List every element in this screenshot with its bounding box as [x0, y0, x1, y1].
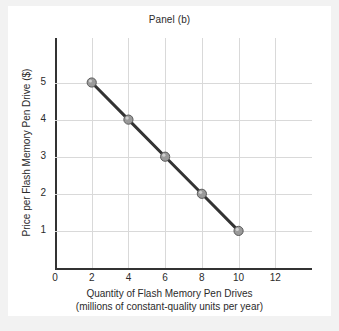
- x-axis-line: [55, 268, 312, 270]
- data-point-highlight: [126, 117, 129, 120]
- x-tick-label-2: 2: [77, 272, 107, 283]
- plot-area: [55, 38, 312, 268]
- data-point-marker: [87, 78, 96, 87]
- data-point-marker: [161, 152, 170, 161]
- data-point-highlight: [236, 228, 239, 231]
- chart-title: Panel (b): [0, 14, 339, 25]
- x-axis-title-main: Quantity of Flash Memory Pen Drives: [0, 287, 339, 300]
- x-axis-title: Quantity of Flash Memory Pen Drives (mil…: [0, 287, 339, 313]
- chart-screenshot: Panel (b) 024681012 12345 Price per Flas…: [0, 0, 339, 331]
- x-tick-label-10: 10: [224, 272, 254, 283]
- data-point-highlight: [199, 191, 202, 194]
- y-axis-title: Price per Flash Memory Pen Drive ($): [21, 43, 32, 263]
- x-tick-label-0: 0: [40, 272, 70, 283]
- data-point-highlight: [162, 154, 165, 157]
- data-point-marker: [234, 226, 243, 235]
- x-tick-label-12: 12: [260, 272, 290, 283]
- data-point-highlight: [89, 79, 92, 82]
- x-tick-label-4: 4: [113, 272, 143, 283]
- x-tick-label-6: 6: [150, 272, 180, 283]
- demand-curve: [55, 38, 312, 268]
- data-point-marker: [197, 189, 206, 198]
- x-tick-label-8: 8: [187, 272, 217, 283]
- data-point-marker: [124, 115, 133, 124]
- x-axis-title-sub: (millions of constant-quality units per …: [0, 300, 339, 313]
